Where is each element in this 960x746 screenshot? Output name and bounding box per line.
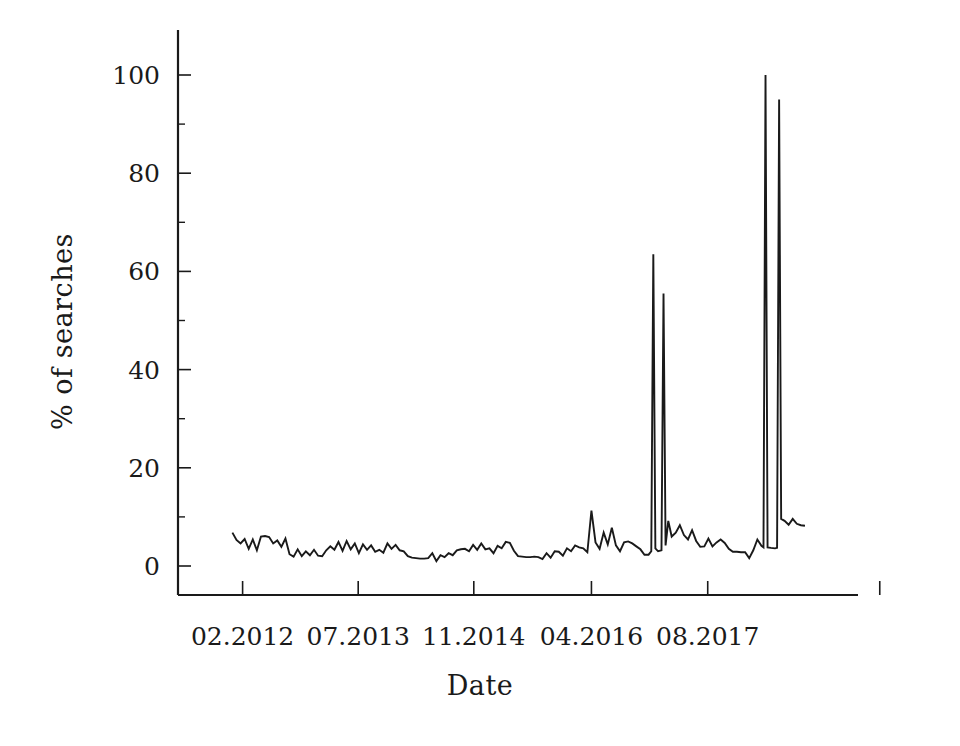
y-ticks-group: [178, 75, 191, 566]
chart-figure: % of searches Date 020406080100 02.20120…: [0, 0, 960, 746]
data-series-group: [232, 75, 805, 561]
axes-group: [178, 30, 858, 595]
x-tick-label: 11.2014: [422, 622, 525, 651]
x-tick-label: 07.2013: [306, 622, 409, 651]
y-tick-label: 100: [30, 61, 160, 90]
search-percentage-line: [232, 75, 805, 561]
y-tick-label: 60: [30, 257, 160, 286]
y-tick-label: 0: [30, 552, 160, 581]
x-ticks-group: [243, 581, 880, 595]
y-tick-label: 40: [30, 355, 160, 384]
x-tick-label: 08.2017: [656, 622, 759, 651]
x-axis-title: Date: [380, 670, 580, 701]
y-axis-title: % of searches: [47, 182, 78, 482]
y-tick-label: 80: [30, 159, 160, 188]
x-tick-label: 02.2012: [191, 622, 294, 651]
y-tick-label: 20: [30, 453, 160, 482]
x-tick-label: 04.2016: [540, 622, 643, 651]
